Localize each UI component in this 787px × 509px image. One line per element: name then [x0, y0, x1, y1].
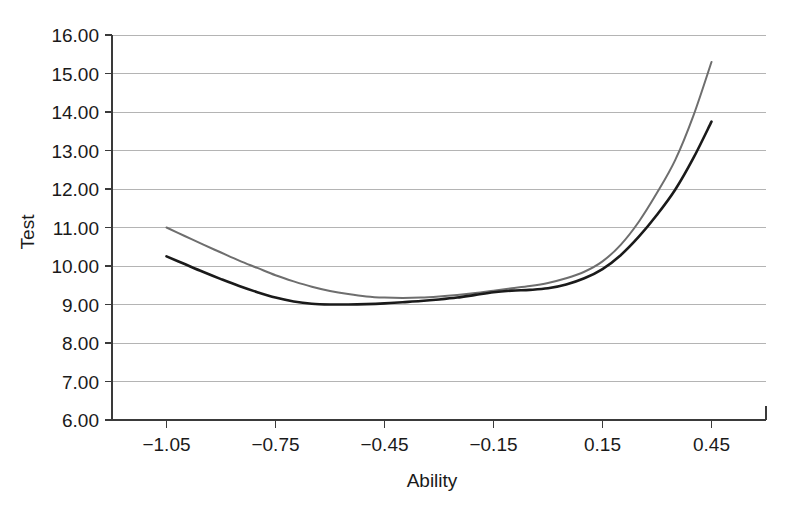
- y-tick-label: 16.00: [51, 25, 99, 46]
- y-tick-label: 11.00: [53, 218, 99, 239]
- y-tick-label: 15.00: [51, 64, 99, 85]
- x-tick-label: 0.45: [693, 434, 730, 455]
- chart-container: 6.007.008.009.0010.0011.0012.0013.0014.0…: [0, 0, 787, 509]
- x-tick-label: −0.45: [360, 434, 408, 455]
- x-tick-label: 0.15: [584, 434, 621, 455]
- chart-background: [0, 0, 787, 509]
- line-chart: 6.007.008.009.0010.0011.0012.0013.0014.0…: [0, 0, 787, 509]
- x-axis-title: Ability: [407, 470, 458, 491]
- x-tick-label: −1.05: [142, 434, 190, 455]
- x-tick-label: −0.75: [251, 434, 299, 455]
- y-tick-label: 9.00: [62, 295, 99, 316]
- x-tick-label: −0.15: [469, 434, 517, 455]
- y-tick-label: 10.00: [51, 256, 99, 277]
- y-tick-label: 8.00: [62, 333, 99, 354]
- y-tick-label: 13.00: [51, 141, 99, 162]
- y-tick-label: 7.00: [62, 372, 99, 393]
- y-tick-label: 14.00: [51, 102, 99, 123]
- y-axis-title: Test: [17, 214, 38, 250]
- y-tick-label: 12.00: [51, 179, 99, 200]
- y-tick-label: 6.00: [62, 410, 99, 431]
